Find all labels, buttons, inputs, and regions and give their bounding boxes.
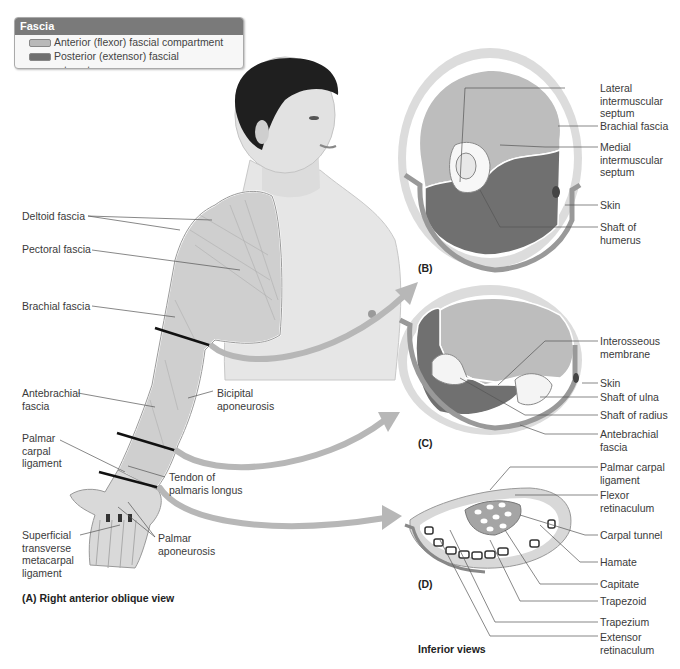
cross-section-d xyxy=(405,467,598,636)
label-palmar-carpal-ligament-d: Palmar carpal ligament xyxy=(600,461,665,486)
caption-panel-d: (D) xyxy=(418,578,433,591)
label-line: Extensor xyxy=(600,631,654,644)
label-line: septum xyxy=(600,166,663,179)
legend-title: Fascia xyxy=(15,18,243,35)
label-shaft-of-humerus: Shaft of humerus xyxy=(600,221,641,246)
label-line: Palmar xyxy=(22,432,62,445)
label-antebrachial-fascia-c: Antebrachial fascia xyxy=(600,428,658,453)
label-deltoid-fascia: Deltoid fascia xyxy=(22,210,85,223)
legend-item-label: Anterior (flexor) fascial compartment xyxy=(54,36,223,48)
label-skin-b: Skin xyxy=(600,199,620,212)
label-line: aponeurosis xyxy=(158,545,215,558)
label-line: membrane xyxy=(600,348,660,361)
label-capitate: Capitate xyxy=(600,578,639,591)
label-line: metacarpal xyxy=(22,554,74,567)
label-line: ligament xyxy=(600,474,665,487)
label-line: Antebrachial xyxy=(600,428,658,441)
label-line: Palmar carpal xyxy=(600,461,665,474)
label-carpal-tunnel: Carpal tunnel xyxy=(600,529,662,542)
label-line: humerus xyxy=(600,234,641,247)
label-palmar-carpal-ligament-a: Palmar carpal ligament xyxy=(22,432,62,470)
legend-item-posterior: Posterior (extensor) fascial compartment xyxy=(15,49,243,63)
label-line: ligament xyxy=(22,567,74,580)
label-palmar-aponeurosis: Palmar aponeurosis xyxy=(158,532,215,557)
anterior-swatch-icon xyxy=(29,39,51,47)
label-shaft-of-ulna: Shaft of ulna xyxy=(600,391,659,404)
label-trapezium: Trapezium xyxy=(600,616,649,629)
label-line: palmaris longus xyxy=(169,484,243,497)
label-line: Medial xyxy=(600,141,663,154)
label-line: ligament xyxy=(22,457,62,470)
label-pectoral-fascia: Pectoral fascia xyxy=(22,243,91,256)
legend-item-label: Posterior (extensor) fascial compartment xyxy=(29,50,179,69)
label-line: Shaft of xyxy=(600,221,641,234)
label-line: fascia xyxy=(22,400,80,413)
label-shaft-of-radius: Shaft of radius xyxy=(600,409,668,422)
label-line: Flexor xyxy=(600,489,654,502)
label-skin-c: Skin xyxy=(600,377,620,390)
label-bicipital-aponeurosis: Bicipital aponeurosis xyxy=(217,387,274,412)
caption-inferior-views: Inferior views xyxy=(418,643,486,656)
label-line: transverse xyxy=(22,542,74,555)
label-flexor-retinaculum: Flexor retinaculum xyxy=(600,489,654,514)
cross-section-b xyxy=(398,48,598,270)
label-antebrachial-fascia-a: Antebrachial fascia xyxy=(22,387,80,412)
label-line: Tendon of xyxy=(169,471,243,484)
label-line: Bicipital xyxy=(217,387,274,400)
label-superficial-transverse-metacarpal-ligament: Superficial transverse metacarpal ligame… xyxy=(22,529,74,579)
label-line: intermuscular xyxy=(600,95,663,108)
cross-section-c xyxy=(398,285,598,435)
legend-item-anterior: Anterior (flexor) fascial compartment xyxy=(15,35,243,49)
label-line: septum xyxy=(600,107,663,120)
label-line: retinaculum xyxy=(600,644,654,657)
label-brachial-fascia-b: Brachial fascia xyxy=(600,120,668,133)
label-line: Superficial xyxy=(22,529,74,542)
label-extensor-retinaculum: Extensor retinaculum xyxy=(600,631,654,656)
legend-box: Fascia Anterior (flexor) fascial compart… xyxy=(14,17,244,69)
label-brachial-fascia-a: Brachial fascia xyxy=(22,300,90,313)
label-line: retinaculum xyxy=(600,502,654,515)
label-line: aponeurosis xyxy=(217,400,274,413)
label-line: fascia xyxy=(600,441,658,454)
anatomy-illustration xyxy=(0,0,680,669)
caption-panel-a: (A) Right anterior oblique view xyxy=(22,592,174,605)
label-line: Palmar xyxy=(158,532,215,545)
caption-panel-c: (C) xyxy=(418,437,433,450)
label-line: intermuscular xyxy=(600,154,663,167)
posterior-swatch-icon xyxy=(29,53,51,61)
label-hamate: Hamate xyxy=(600,556,637,569)
label-lateral-intermuscular-septum: Lateral intermuscular septum xyxy=(600,82,663,120)
label-line: Antebrachial xyxy=(22,387,80,400)
label-line: Lateral xyxy=(600,82,663,95)
label-interosseous-membrane: Interosseous membrane xyxy=(600,335,660,360)
label-trapezoid: Trapezoid xyxy=(600,595,646,608)
label-line: carpal xyxy=(22,445,62,458)
label-line: Interosseous xyxy=(600,335,660,348)
label-medial-intermuscular-septum: Medial intermuscular septum xyxy=(600,141,663,179)
label-tendon-palmaris-longus: Tendon of palmaris longus xyxy=(169,471,243,496)
caption-panel-b: (B) xyxy=(418,262,433,275)
